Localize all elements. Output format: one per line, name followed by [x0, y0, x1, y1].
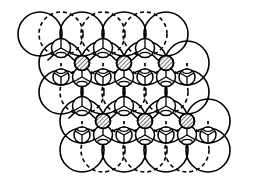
cation-base-ellipse: [119, 81, 129, 86]
hatched-interstitial: [180, 114, 195, 129]
hatched-circle-fill: [96, 114, 111, 129]
cation-base-ellipse: [140, 52, 150, 57]
tetrahedral-cation-down: [179, 69, 195, 85]
cation-top-ellipse: [57, 69, 66, 73]
hatched-interstitial: [159, 56, 174, 71]
crystal-structure-figure: [0, 0, 279, 186]
tetrahedral-cation-up: [73, 97, 92, 116]
cation-top-ellipse: [204, 127, 213, 131]
lattice-canvas: [0, 0, 279, 186]
tetrahedral-cation-down: [158, 127, 174, 143]
cation-base-ellipse: [56, 52, 66, 57]
cation-base-ellipse: [77, 110, 87, 115]
tetrahedral-cation-up: [157, 97, 176, 116]
tetrahedral-cation-up: [94, 39, 113, 58]
tetrahedral-cation-down: [137, 69, 153, 85]
hatched-circle-fill: [117, 56, 132, 71]
cation-top-ellipse: [141, 69, 150, 73]
tetrahedral-cation-down: [116, 127, 132, 143]
hatched-interstitial: [138, 114, 153, 129]
cation-base-ellipse: [77, 81, 87, 86]
tetrahedral-cation-down: [95, 69, 111, 85]
tetrahedral-cation-down: [53, 69, 69, 85]
cation-base-ellipse: [140, 139, 150, 144]
cation-top-ellipse: [120, 127, 129, 131]
tetrahedral-cation-down: [74, 127, 90, 143]
cation-top-ellipse: [78, 127, 87, 131]
hatched-circle-fill: [138, 114, 153, 129]
tetrahedral-cation-down: [200, 127, 216, 143]
hatched-interstitial: [96, 114, 111, 129]
cation-base-ellipse: [119, 110, 129, 115]
cation-base-ellipse: [161, 81, 171, 86]
hatched-circle-fill: [159, 56, 174, 71]
cation-base-ellipse: [98, 52, 108, 57]
hatched-interstitial: [75, 56, 90, 71]
tetrahedral-cation-up: [115, 97, 134, 116]
tetrahedral-cation-up: [136, 39, 155, 58]
hatched-circle-fill: [180, 114, 195, 129]
hatched-circle-fill: [75, 56, 90, 71]
cation-base-ellipse: [98, 139, 108, 144]
cation-base-ellipse: [182, 139, 192, 144]
cation-top-ellipse: [183, 69, 192, 73]
cation-top-ellipse: [99, 69, 108, 73]
cation-base-ellipse: [161, 110, 171, 115]
cation-top-ellipse: [162, 127, 171, 131]
tetrahedral-cation-up: [52, 39, 71, 58]
hatched-interstitial: [117, 56, 132, 71]
